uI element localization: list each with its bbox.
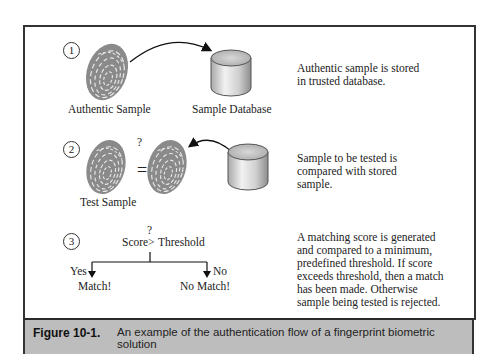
desc-line: A matching score is generated <box>297 231 467 244</box>
match-result: Match! <box>78 280 111 292</box>
desc-line: and compared to a minimum, <box>297 244 467 257</box>
desc-line: has been made. Otherwise <box>297 283 467 296</box>
desc-line: predefined threshold. If score <box>297 257 467 270</box>
desc-line: exceeds threshold, then a match <box>297 270 467 283</box>
yes-label: Yes <box>70 265 87 277</box>
step-3-description: A matching score is generated and compar… <box>297 231 467 309</box>
figure-caption-bar: Figure 10-1. An example of the authentic… <box>23 318 474 354</box>
desc-line: sample being tested is rejected. <box>297 296 467 309</box>
figure-caption: An example of the authentication flow of… <box>117 326 472 350</box>
no-label: No <box>213 265 227 277</box>
no-match-result: No Match! <box>180 280 230 292</box>
figure-label: Figure 10-1. <box>33 326 100 340</box>
